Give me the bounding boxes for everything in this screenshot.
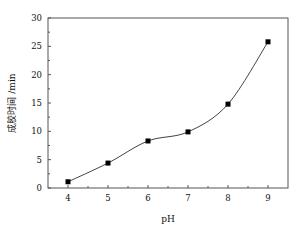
data-point-marker [106, 161, 111, 166]
data-points [66, 39, 271, 184]
x-tick-label: 6 [145, 193, 150, 203]
gel-time-chart: 051015202530 456789 pH 成胶时间 /min [0, 0, 302, 236]
x-tick-label: 5 [105, 193, 110, 203]
y-tick-label: 25 [31, 41, 42, 51]
y-axis-title: 成胶时间 /min [6, 73, 17, 132]
y-tick-label: 30 [31, 13, 42, 23]
data-point-marker [146, 138, 151, 143]
y-tick-label: 0 [37, 183, 42, 193]
data-point-marker [66, 179, 71, 184]
data-point-marker [186, 129, 191, 134]
x-tick-label: 8 [225, 193, 230, 203]
y-tick-label: 20 [31, 70, 42, 80]
x-tick-label: 4 [65, 193, 70, 203]
data-point-marker [226, 102, 231, 107]
y-tick-label: 10 [31, 126, 42, 136]
y-tick-label: 15 [31, 98, 42, 108]
x-axis-title: pH [161, 214, 175, 224]
data-point-marker [266, 39, 271, 44]
x-tick-label: 9 [265, 193, 270, 203]
trend-curve [68, 42, 268, 182]
plot-frame [48, 18, 288, 188]
y-tick-label: 5 [37, 155, 42, 165]
x-tick-label: 7 [185, 193, 190, 203]
